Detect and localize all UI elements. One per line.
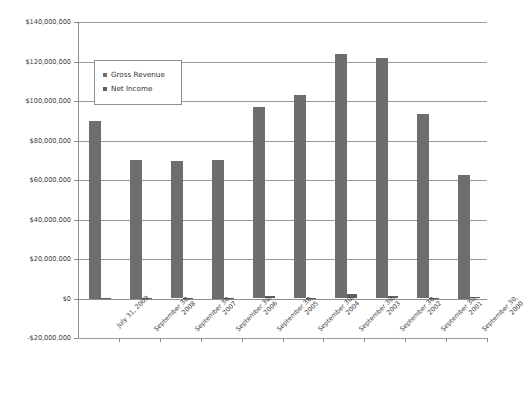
bar-gross-revenue (417, 114, 429, 299)
bar-gross-revenue (376, 58, 388, 299)
y-axis-tick-label: $40,000,000 (0, 216, 71, 224)
bar-gross-revenue (89, 121, 101, 299)
y-axis-tick (74, 22, 78, 23)
x-axis-tick (119, 338, 120, 342)
legend-swatch-net-income (103, 87, 107, 91)
legend-item-net-income: Net Income (103, 84, 181, 93)
bar-gross-revenue (171, 161, 183, 298)
bar-gross-revenue (212, 160, 224, 298)
y-axis-tick-label: -$20,000,000 (0, 334, 71, 342)
y-axis-tick (74, 101, 78, 102)
y-axis-tick (74, 62, 78, 63)
legend-label-gross-revenue: Gross Revenue (111, 70, 165, 79)
y-axis-tick (74, 220, 78, 221)
y-axis-tick (74, 141, 78, 142)
bar-gross-revenue (458, 175, 470, 298)
y-axis-tick-label: $120,000,000 (0, 58, 71, 66)
legend-item-gross-revenue: Gross Revenue (103, 70, 181, 79)
chart-legend: Gross Revenue Net Income (94, 60, 182, 105)
y-axis-tick-label: $140,000,000 (0, 18, 71, 26)
y-axis-tick (74, 299, 78, 300)
y-axis-tick-label: $100,000,000 (0, 97, 71, 105)
y-axis-tick-label: $20,000,000 (0, 255, 71, 263)
legend-swatch-gross-revenue (103, 73, 107, 77)
bar-gross-revenue (294, 95, 306, 298)
legend-label-net-income: Net Income (111, 84, 152, 93)
bar-gross-revenue (335, 54, 347, 299)
y-axis-tick-label: $60,000,000 (0, 176, 71, 184)
y-axis-tick-label: $0 (0, 295, 71, 303)
y-axis-tick-label: $80,000,000 (0, 137, 71, 145)
bar-gross-revenue (130, 160, 142, 298)
y-axis-tick (74, 338, 78, 339)
y-axis-tick (74, 259, 78, 260)
y-axis-tick (74, 180, 78, 181)
bar-gross-revenue (253, 107, 265, 299)
y-axis-labels: $140,000,000$120,000,000$100,000,000$80,… (0, 0, 71, 400)
bar-net-income (101, 298, 111, 299)
